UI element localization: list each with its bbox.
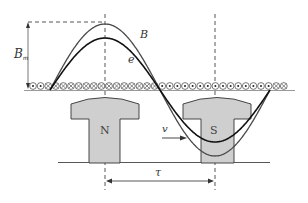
velocity-label: v <box>162 124 168 134</box>
amplitude-label: Bm <box>14 48 29 61</box>
amplitude-label-main: B <box>14 47 23 61</box>
amplitude-label-subscript: m <box>23 54 29 61</box>
machine-waveform-diagram <box>0 0 308 203</box>
pole-pitch-label: τ <box>155 167 161 178</box>
north-pole-label: N <box>100 125 110 136</box>
b-curve-label: B <box>140 29 148 40</box>
e-curve-label: e <box>128 54 135 65</box>
south-pole-label: S <box>210 125 218 136</box>
velocity-arrow <box>162 136 187 141</box>
pole-pitch-dimension-arrow <box>106 179 214 184</box>
